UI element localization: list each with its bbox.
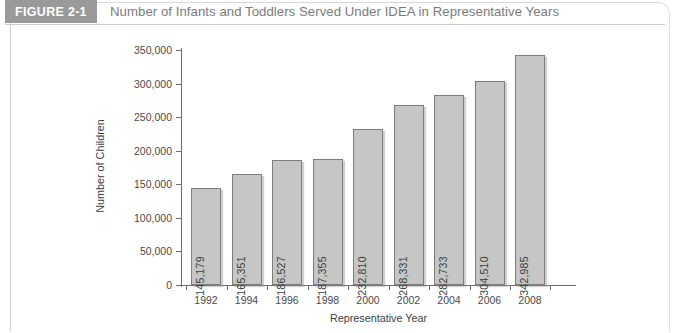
bar-value-label: 268,331: [397, 256, 409, 295]
y-axis-line: [181, 48, 182, 287]
y-tick-mark: [176, 84, 181, 85]
bar-value-label: 304,510: [478, 256, 490, 295]
bar-value-label: 187,355: [316, 256, 328, 295]
y-tick-label: 0: [110, 279, 172, 291]
bar-value-label: 282,733: [437, 256, 449, 295]
bar: 187,355: [313, 159, 343, 285]
x-axis-title: Representative Year: [181, 312, 576, 324]
x-tick-label: 1994: [225, 294, 269, 306]
y-tick-mark: [176, 184, 181, 185]
bar-value-label: 186,527: [275, 256, 287, 295]
y-tick-label: 50,000: [110, 245, 172, 257]
y-tick-mark: [176, 251, 181, 252]
x-tick-label: 2002: [387, 294, 431, 306]
y-tick-label: 350,000: [110, 44, 172, 56]
bar-chart: Number of Children Representative Year 0…: [0, 24, 677, 333]
y-tick-mark: [176, 285, 181, 286]
x-tick-mark: [267, 285, 268, 290]
bar: 232,810: [353, 129, 383, 285]
x-tick-label: 1998: [306, 294, 350, 306]
x-tick-label: 1992: [184, 294, 228, 306]
figure-number-badge: FIGURE 2-1: [5, 0, 97, 23]
bar-value-label: 342,985: [518, 256, 530, 295]
x-tick-label: 2008: [508, 294, 552, 306]
x-tick-label: 2000: [346, 294, 390, 306]
y-tick-mark: [176, 218, 181, 219]
x-tick-label: 2004: [427, 294, 471, 306]
x-tick-label: 2006: [468, 294, 512, 306]
x-tick-mark: [510, 285, 511, 290]
figure-title: Number of Infants and Toddlers Served Un…: [110, 0, 559, 23]
bar-value-label: 232,810: [356, 256, 368, 295]
x-tick-mark: [470, 285, 471, 290]
x-tick-mark: [186, 285, 187, 290]
y-tick-label: 250,000: [110, 111, 172, 123]
y-tick-label: 200,000: [110, 145, 172, 157]
y-tick-label: 100,000: [110, 212, 172, 224]
figure-header: FIGURE 2-1 Number of Infants and Toddler…: [0, 0, 677, 24]
x-tick-label: 1996: [265, 294, 309, 306]
bar: 282,733: [434, 95, 464, 285]
y-tick-mark: [176, 50, 181, 51]
x-tick-mark: [389, 285, 390, 290]
y-tick-mark: [176, 151, 181, 152]
x-tick-mark: [429, 285, 430, 290]
bar: 268,331: [394, 105, 424, 285]
bar: 186,527: [272, 160, 302, 285]
x-tick-mark: [227, 285, 228, 290]
bar: 145,179: [191, 188, 221, 285]
y-tick-label: 150,000: [110, 178, 172, 190]
bar: 304,510: [475, 81, 505, 285]
bar: 342,985: [515, 55, 545, 285]
x-tick-mark: [348, 285, 349, 290]
x-tick-mark: [308, 285, 309, 290]
y-tick-label: 300,000: [110, 78, 172, 90]
y-axis-title: Number of Children: [94, 119, 106, 213]
x-tick-mark: [550, 285, 551, 290]
bar-value-label: 145,179: [194, 256, 206, 295]
y-tick-mark: [176, 117, 181, 118]
bar-value-label: 165,351: [235, 256, 247, 295]
bar: 165,351: [232, 174, 262, 285]
